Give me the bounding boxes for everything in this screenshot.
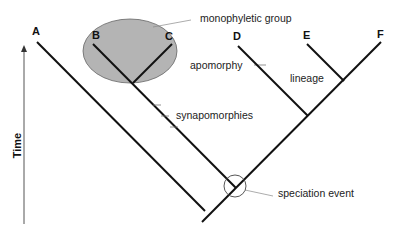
- monophyletic-leader: [153, 20, 191, 27]
- speciation-leader: [245, 190, 273, 196]
- taxon-label-D: D: [233, 31, 241, 42]
- taxon-label-A: A: [32, 26, 40, 37]
- apomorphy-label: apomorphy: [190, 60, 243, 71]
- taxon-label-C: C: [165, 31, 173, 42]
- monophyletic-group-label: monophyletic group: [200, 13, 292, 24]
- taxon-label-F: F: [377, 29, 384, 40]
- time-axis-label: Time: [12, 131, 23, 161]
- taxon-label-E: E: [303, 30, 310, 41]
- lineage-label: lineage: [290, 73, 324, 84]
- synapomorphies-label: synapomorphies: [176, 110, 253, 121]
- speciation-event-label: speciation event: [278, 188, 354, 199]
- time-arrow-head: [21, 45, 27, 52]
- taxon-label-B: B: [92, 30, 100, 41]
